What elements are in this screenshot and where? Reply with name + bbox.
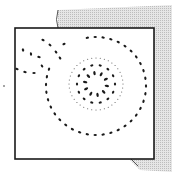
halo-dot: [115, 65, 116, 66]
inner-ring-dot: [114, 82, 116, 85]
halo-dot: [71, 95, 72, 96]
halo-dot: [69, 88, 70, 89]
halo-dot: [83, 60, 84, 61]
halo-dot: [74, 68, 75, 69]
halo-dot: [122, 88, 123, 89]
halo-dot: [120, 72, 121, 73]
halo-dot: [69, 79, 70, 80]
halo-dot: [87, 108, 88, 109]
halo-dot: [121, 75, 122, 76]
halo-dot: [123, 84, 124, 85]
halo-dot: [74, 99, 75, 100]
halo-dot: [80, 105, 81, 106]
trail-dot: [32, 72, 35, 74]
stray-dot: [3, 85, 5, 87]
halo-dot: [122, 79, 123, 80]
halo-dot: [108, 107, 109, 108]
backing-sheet-edge: [57, 10, 59, 28]
halo-dot: [87, 59, 88, 60]
halo-dot: [117, 68, 118, 69]
halo-dot: [76, 102, 77, 103]
halo-dot: [70, 75, 71, 76]
halo-dot: [80, 62, 81, 63]
halo-dot: [96, 110, 97, 111]
halo-dot: [91, 58, 92, 59]
halo-dot: [83, 107, 84, 108]
outer-ring-dot: [145, 84, 147, 87]
halo-dot: [104, 59, 105, 60]
halo-dot: [117, 99, 118, 100]
halo-dot: [104, 108, 105, 109]
inner-ring-dot: [76, 82, 78, 85]
diagram-canvas: [0, 0, 172, 177]
halo-dot: [70, 92, 71, 93]
halo-dot: [69, 84, 70, 85]
halo-dot: [100, 109, 101, 110]
halo-dot: [91, 109, 92, 110]
halo-dot: [121, 92, 122, 93]
halo-dot: [111, 62, 112, 63]
halo-dot: [108, 60, 109, 61]
halo-dot: [115, 102, 116, 103]
halo-dot: [111, 105, 112, 106]
halo-dot: [96, 58, 97, 59]
halo-dot: [120, 95, 121, 96]
square-frame: [15, 28, 154, 159]
halo-dot: [76, 65, 77, 66]
halo-dot: [100, 58, 101, 59]
halo-dot: [71, 72, 72, 73]
